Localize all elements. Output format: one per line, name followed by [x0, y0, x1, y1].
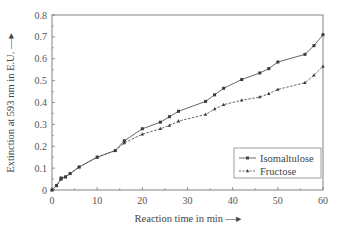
x-tick-label: 60	[318, 195, 328, 206]
legend: Isomaltulose Fructose	[234, 148, 321, 178]
x-axis-title: Reaction time in min —▸	[135, 213, 242, 224]
x-tick-label: 0	[50, 195, 55, 206]
y-tick-label: 0.4	[35, 97, 48, 108]
line-chart: 0102030405060 00.10.20.30.40.50.60.70.8 …	[0, 0, 344, 234]
data-point-square-icon	[312, 44, 315, 47]
x-tick-label: 50	[273, 195, 283, 206]
data-point-triangle-icon	[240, 98, 243, 101]
y-tick-label: 0.8	[35, 10, 48, 21]
data-point-triangle-icon	[159, 127, 162, 130]
y-tick-label: 0.2	[35, 141, 48, 152]
data-point-square-icon	[168, 115, 171, 118]
data-point-square-icon	[267, 67, 270, 70]
legend-marker-square-icon	[246, 157, 249, 160]
data-point-triangle-icon	[177, 119, 180, 122]
y-tick-label: 0.7	[35, 31, 48, 42]
data-point-square-icon	[204, 100, 207, 103]
y-tick-label: 0.6	[35, 53, 48, 64]
y-tick-label: 0.3	[35, 119, 48, 130]
y-axis-title: Extinction at 593 nm in E.U. —▸	[5, 33, 16, 173]
data-point-square-icon	[177, 110, 180, 113]
data-point-square-icon	[222, 87, 225, 90]
data-point-square-icon	[276, 61, 279, 64]
data-point-square-icon	[322, 33, 325, 36]
data-point-square-icon	[240, 78, 243, 81]
data-point-square-icon	[303, 53, 306, 56]
data-point-triangle-icon	[321, 64, 324, 67]
legend-label: Fructose	[260, 166, 297, 177]
data-point-triangle-icon	[204, 113, 207, 116]
x-tick-label: 10	[92, 195, 102, 206]
legend-label: Isomaltulose	[260, 153, 314, 164]
y-tick-label: 0	[42, 185, 47, 196]
x-tick-label: 30	[183, 195, 193, 206]
data-point-square-icon	[141, 127, 144, 130]
x-tick-label: 20	[137, 195, 147, 206]
y-tick-label: 0.1	[35, 163, 48, 174]
x-tick-label: 40	[228, 195, 238, 206]
y-tick-label: 0.5	[35, 75, 48, 86]
data-point-triangle-icon	[222, 103, 225, 106]
data-point-square-icon	[258, 71, 261, 74]
data-point-square-icon	[213, 93, 216, 96]
data-point-square-icon	[159, 121, 162, 124]
